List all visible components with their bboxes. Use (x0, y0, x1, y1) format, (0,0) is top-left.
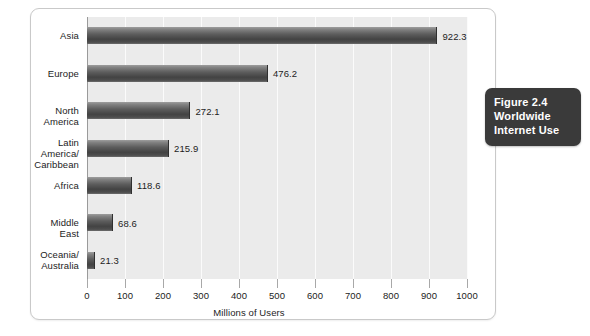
category-label: Latin America/Caribbean (31, 137, 79, 170)
bar (87, 140, 169, 157)
x-axis-tickmark (467, 279, 468, 288)
x-axis-tick-label: 400 (231, 290, 247, 301)
x-axis-tick-label: 900 (421, 290, 437, 301)
x-axis-tickmark (125, 279, 126, 288)
x-axis-tick-label: 300 (193, 290, 209, 301)
bar-chart: 01002003004005006007008009001000922.3Asi… (31, 9, 495, 319)
x-axis-tickmark (315, 279, 316, 288)
category-label: Oceania/Australia (31, 249, 79, 271)
bar-row: 68.6 (87, 214, 467, 231)
x-axis-tickmark (391, 279, 392, 288)
bar-value-label: 476.2 (273, 68, 297, 79)
x-axis-tick-label: 100 (117, 290, 133, 301)
category-label-line: Middle East (31, 217, 79, 239)
figure-caption-line-2: Worldwide (494, 109, 581, 123)
x-axis-tickmark (239, 279, 240, 288)
bar (87, 214, 113, 231)
x-axis-tick-label: 500 (269, 290, 285, 301)
bar (87, 65, 268, 82)
figure-panel: 01002003004005006007008009001000922.3Asi… (30, 8, 496, 320)
category-label-line: Asia (31, 30, 79, 41)
category-label: North America (31, 105, 79, 127)
bar (87, 252, 95, 269)
figure-caption-line-1: Figure 2.4 (494, 95, 581, 109)
category-label-line: Caribbean (31, 159, 79, 170)
category-label: Africa (31, 180, 79, 191)
gridline (467, 17, 468, 279)
x-axis-tickmark (87, 279, 88, 288)
bar-row: 272.1 (87, 102, 467, 119)
figure-caption-box: Figure 2.4 Worldwide Internet Use (485, 88, 581, 146)
x-axis-tick-label: 200 (155, 290, 171, 301)
category-label-line: Africa (31, 180, 79, 191)
bar-value-label: 68.6 (118, 217, 137, 228)
bar-value-label: 922.3 (442, 30, 466, 41)
x-axis-tickmark (277, 279, 278, 288)
category-label-line: Oceania/ (31, 249, 79, 260)
bar (87, 102, 190, 119)
bar-row: 215.9 (87, 140, 467, 157)
bar-row: 118.6 (87, 177, 467, 194)
x-axis-tick-label: 800 (383, 290, 399, 301)
bar (87, 177, 132, 194)
x-axis-tick-label: 700 (345, 290, 361, 301)
category-label-line: Australia (31, 260, 79, 271)
x-axis-tick-label: 0 (84, 290, 89, 301)
bar-row: 21.3 (87, 252, 467, 269)
category-label: Europe (31, 68, 79, 79)
category-label-line: Europe (31, 68, 79, 79)
x-axis-tick-label: 1000 (456, 290, 478, 301)
bar (87, 27, 437, 44)
category-label-line: North America (31, 105, 79, 127)
bar-value-label: 215.9 (174, 143, 198, 154)
bar-row: 922.3 (87, 27, 467, 44)
x-axis-title: Millions of Users (31, 307, 467, 318)
category-label: Asia (31, 30, 79, 41)
x-axis-tickmark (429, 279, 430, 288)
bar-value-label: 272.1 (195, 105, 219, 116)
x-axis-tickmark (353, 279, 354, 288)
bar-row: 476.2 (87, 65, 467, 82)
category-label-line: Latin America/ (31, 137, 79, 159)
x-axis-tickmark (163, 279, 164, 288)
x-axis-tickmark (201, 279, 202, 288)
bar-value-label: 21.3 (100, 255, 119, 266)
category-label: Middle East (31, 217, 79, 239)
figure-caption-line-3: Internet Use (494, 123, 581, 137)
bar-value-label: 118.6 (137, 180, 161, 191)
x-axis-tick-label: 600 (307, 290, 323, 301)
